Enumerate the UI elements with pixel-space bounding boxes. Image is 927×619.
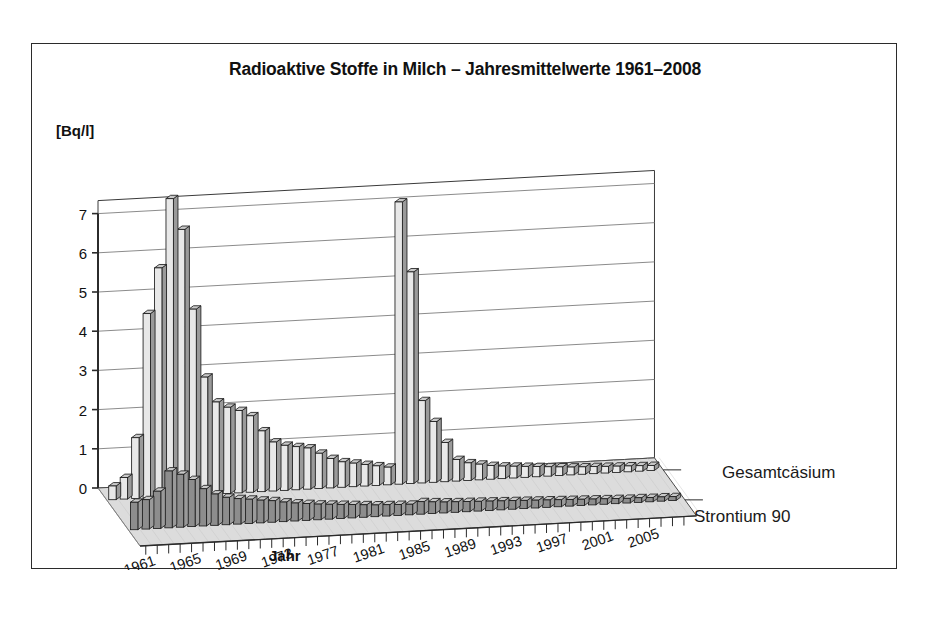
svg-text:1981: 1981 xyxy=(351,540,387,566)
svg-text:5: 5 xyxy=(79,284,87,301)
svg-text:2001: 2001 xyxy=(580,528,616,554)
svg-text:2005: 2005 xyxy=(626,525,662,551)
svg-text:4: 4 xyxy=(79,323,87,340)
svg-text:1997: 1997 xyxy=(534,530,570,556)
svg-text:1965: 1965 xyxy=(168,550,204,570)
svg-text:2: 2 xyxy=(79,402,87,419)
svg-text:1961: 1961 xyxy=(122,552,158,570)
svg-text:3: 3 xyxy=(79,362,87,379)
svg-text:1977: 1977 xyxy=(305,542,341,568)
svg-text:1969: 1969 xyxy=(213,547,249,570)
x-axis-title: Jahr xyxy=(269,547,301,564)
svg-text:6: 6 xyxy=(79,245,87,262)
svg-text:1985: 1985 xyxy=(397,538,433,564)
screenshot-root: Radioaktive Stoffe in Milch – Jahresmitt… xyxy=(0,0,927,619)
svg-text:1989: 1989 xyxy=(442,535,478,561)
svg-text:0: 0 xyxy=(79,480,87,497)
chart-plot-area: 0123456719611965196919731977198119851989… xyxy=(32,44,898,570)
svg-text:1: 1 xyxy=(79,441,87,458)
series-label-strontium-90: Strontium 90 xyxy=(694,507,790,527)
series-label-gesamtcaesium: Gesamtcäsium xyxy=(722,463,835,483)
chart-figure-frame: Radioaktive Stoffe in Milch – Jahresmitt… xyxy=(31,43,897,569)
svg-text:7: 7 xyxy=(79,206,87,223)
svg-text:1993: 1993 xyxy=(488,533,524,559)
